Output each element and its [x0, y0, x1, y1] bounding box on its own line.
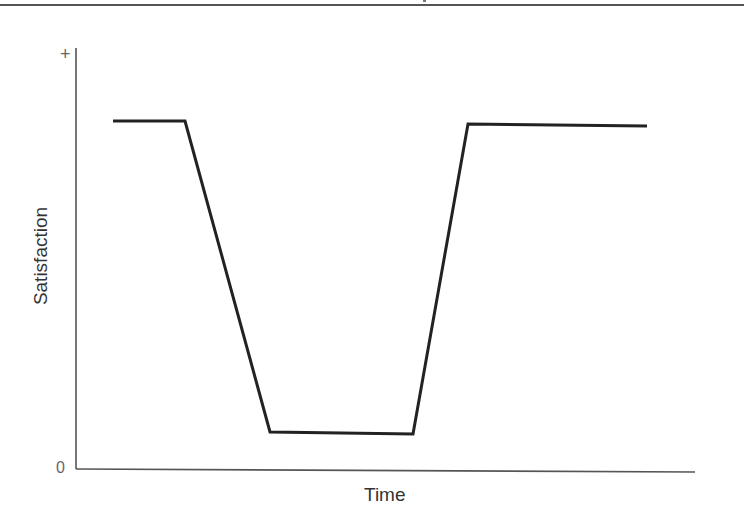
y-axis-title: Satisfaction — [30, 207, 52, 305]
chart-plot — [0, 0, 744, 524]
satisfaction-line — [113, 121, 647, 434]
y-max-label: + — [60, 44, 71, 65]
y-min-label: 0 — [56, 459, 65, 477]
x-axis-title: Time — [364, 484, 406, 506]
x-axis — [76, 469, 695, 472]
